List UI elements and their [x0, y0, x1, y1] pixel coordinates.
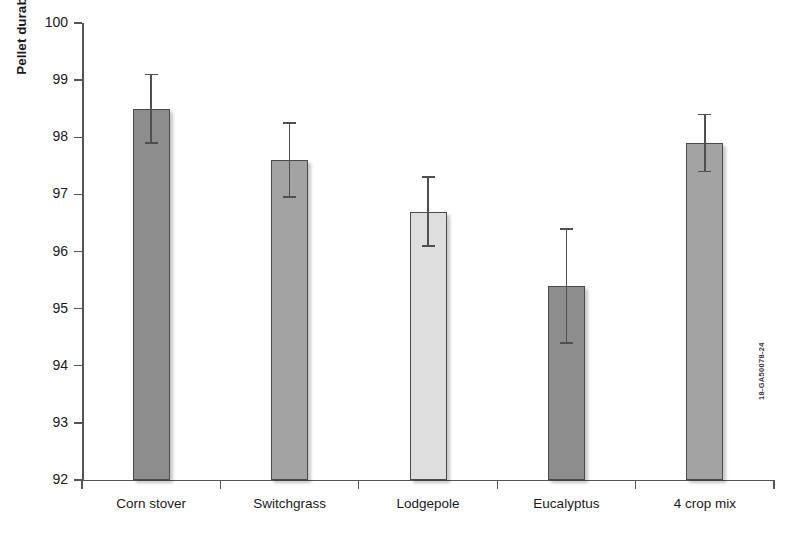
x-axis-tick [635, 480, 636, 489]
error-bar-stem [566, 229, 568, 343]
error-bar-stem [427, 177, 429, 246]
error-bar-cap-upper [145, 74, 158, 76]
y-axis-tick [74, 22, 82, 23]
y-axis-tick [74, 251, 82, 252]
y-axis-tick [74, 308, 82, 309]
y-axis-tick [74, 137, 82, 138]
error-bar-stem [150, 74, 152, 143]
y-axis-label: Pellet durability (%) [14, 0, 29, 122]
y-axis-tick-label: 100 [28, 14, 68, 30]
y-axis-tick [74, 422, 82, 423]
error-bar-cap-lower [560, 342, 573, 344]
x-axis-tick [220, 480, 221, 489]
error-bar-cap-lower [145, 142, 158, 144]
y-axis-tick-label: 92 [28, 471, 68, 487]
y-axis-line [82, 23, 84, 481]
x-axis-tick-label: Switchgrass [220, 496, 360, 511]
y-axis-tick-label: 97 [28, 185, 68, 201]
bar-4-crop-mix [686, 143, 723, 480]
x-axis-tick [81, 480, 82, 489]
chart-figure: Pellet durability (%) 929394959697989910… [0, 0, 793, 535]
error-bar-cap-upper [422, 176, 435, 178]
error-bar-cap-upper [698, 114, 711, 116]
figure-id-watermark: 18-GA50078-24 [757, 342, 766, 400]
error-bar-cap-lower [283, 196, 296, 198]
y-axis-tick-label: 93 [28, 414, 68, 430]
error-bar-cap-lower [422, 245, 435, 247]
bar-switchgrass [271, 160, 308, 480]
x-axis-tick-label: 4 crop mix [635, 496, 775, 511]
bar-corn-stover [133, 109, 170, 480]
caption-fragment [28, 527, 763, 533]
x-axis-tick-label: Corn stover [81, 496, 221, 511]
y-axis-tick [74, 365, 82, 366]
x-axis-tick-label: Eucalyptus [496, 496, 636, 511]
y-axis-tick-label: 98 [28, 128, 68, 144]
y-axis-tick-label: 95 [28, 300, 68, 316]
error-bar-stem [289, 123, 291, 197]
x-axis-tick-label: Lodgepole [358, 496, 498, 511]
y-axis-tick [74, 79, 82, 80]
error-bar-stem [704, 114, 706, 171]
y-axis-tick-label: 96 [28, 243, 68, 259]
x-axis-tick [773, 480, 774, 489]
error-bar-cap-upper [283, 122, 296, 124]
x-axis-tick [358, 480, 359, 489]
y-axis-tick-label: 99 [28, 71, 68, 87]
x-axis-tick [497, 480, 498, 489]
bar-lodgepole [410, 212, 447, 480]
error-bar-cap-upper [560, 228, 573, 230]
y-axis-tick [74, 194, 82, 195]
error-bar-cap-lower [698, 171, 711, 173]
y-axis-tick-label: 94 [28, 357, 68, 373]
